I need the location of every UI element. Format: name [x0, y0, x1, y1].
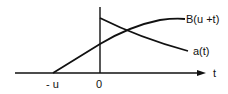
- t-axis-label: t: [213, 67, 216, 79]
- a-curve: [100, 18, 188, 51]
- tick-label-zero: 0: [96, 78, 102, 90]
- axis-arrow-icon: [197, 70, 206, 76]
- a-curve-label: a(t): [193, 45, 210, 57]
- diagram: B(u +t) a(t) t - u 0: [0, 0, 228, 94]
- tick-label-neg-u: - u: [46, 78, 59, 90]
- b-curve-label: B(u +t): [186, 13, 219, 25]
